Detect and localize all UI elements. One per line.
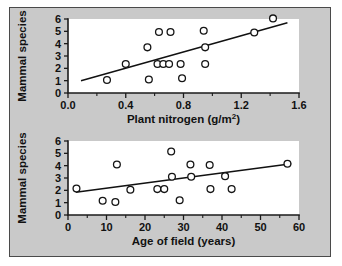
y-axis-title: Mammal species <box>16 133 28 224</box>
y-axis-tick-label: 5 <box>55 25 61 37</box>
y-axis-tick-label: 5 <box>55 147 61 159</box>
data-point <box>222 173 229 180</box>
x-axis-tick-label: 1.2 <box>234 99 249 111</box>
data-point <box>207 186 214 193</box>
scatter-plot-age-of-field: 01234560102030405060Mammal speciesAge of… <box>10 133 332 258</box>
figure-root: 01234560.00.40.81.21.6Mammal speciesPlan… <box>0 0 342 266</box>
y-axis-tick-label: 6 <box>55 135 61 147</box>
data-point <box>270 15 277 22</box>
x-axis-title: Age of field (years) <box>132 235 236 247</box>
y-axis-tick-label: 1 <box>55 75 61 87</box>
y-axis-tick-label: 4 <box>55 38 62 50</box>
data-point <box>202 44 209 51</box>
data-point <box>206 162 213 169</box>
x-axis-tick-label: 0.0 <box>60 99 75 111</box>
x-axis-tick-label: 1.6 <box>291 99 306 111</box>
data-point <box>104 77 111 84</box>
data-point <box>112 199 119 206</box>
data-point <box>122 61 129 68</box>
data-point <box>251 29 258 36</box>
data-point <box>99 197 106 204</box>
x-axis-tick-label: 50 <box>254 221 266 233</box>
data-point <box>202 61 209 68</box>
data-point <box>154 186 161 193</box>
y-axis-tick-label: 4 <box>55 160 62 172</box>
data-point <box>169 173 176 180</box>
x-axis-tick-label: 0 <box>65 221 71 233</box>
data-point <box>228 186 235 193</box>
data-point <box>166 61 173 68</box>
x-axis-tick-label: 0.8 <box>176 99 191 111</box>
x-axis-tick-label: 20 <box>139 221 151 233</box>
data-point <box>156 29 163 36</box>
y-axis-tick-label: 0 <box>55 209 61 221</box>
x-axis-tick-label: 60 <box>293 221 305 233</box>
data-point <box>127 186 134 193</box>
scatter-plot-plant-nitrogen: 01234560.00.40.81.21.6Mammal speciesPlan… <box>10 8 332 133</box>
x-axis-tick-label: 30 <box>177 221 189 233</box>
data-point <box>179 75 186 82</box>
data-point <box>113 161 120 168</box>
data-point <box>161 186 168 193</box>
data-point <box>284 160 291 167</box>
y-axis-tick-label: 2 <box>55 184 61 196</box>
chart-panel-plant-nitrogen: 01234560.00.40.81.21.6Mammal speciesPlan… <box>10 8 332 133</box>
chart-panel-age-of-field: 01234560102030405060Mammal speciesAge of… <box>10 133 332 258</box>
data-point <box>73 185 80 192</box>
figure-frame: 01234560.00.40.81.21.6Mammal speciesPlan… <box>9 7 331 257</box>
y-axis-tick-label: 1 <box>55 197 61 209</box>
x-axis-tick-label: 40 <box>216 221 228 233</box>
y-axis-tick-label: 0 <box>55 87 61 99</box>
data-point <box>200 27 207 34</box>
data-point <box>167 29 174 36</box>
y-axis-tick-label: 3 <box>55 172 61 184</box>
data-point <box>144 44 151 51</box>
data-point <box>145 76 152 83</box>
data-point <box>176 197 183 204</box>
data-point <box>177 61 184 68</box>
data-point <box>168 148 175 155</box>
y-axis-tick-label: 6 <box>55 13 61 25</box>
y-axis-tick-label: 3 <box>55 50 61 62</box>
x-axis-tick-label: 0.4 <box>118 99 134 111</box>
data-point <box>187 161 194 168</box>
x-axis-title: Plant nitrogen (g/m2) <box>127 112 240 125</box>
x-axis-tick-label: 10 <box>100 221 112 233</box>
y-axis-title: Mammal species <box>16 10 28 101</box>
data-point <box>188 173 195 180</box>
y-axis-tick-label: 2 <box>55 62 61 74</box>
